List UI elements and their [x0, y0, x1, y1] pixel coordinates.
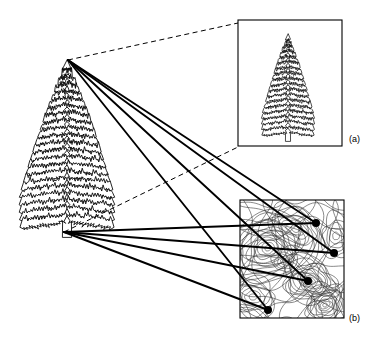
connector-layer	[0, 0, 375, 349]
panel-a-label: (a)	[349, 134, 360, 144]
figure-root: (a) (b)	[0, 0, 375, 349]
panel-b-label: (b)	[349, 313, 360, 323]
solid-sightline-rays	[64, 60, 334, 310]
contour-markers	[264, 219, 338, 314]
dashed-connectors	[64, 23, 238, 232]
